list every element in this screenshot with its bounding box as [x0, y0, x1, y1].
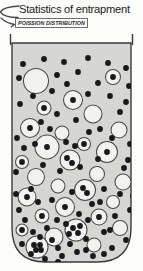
free-particle	[101, 186, 107, 192]
free-particle	[55, 245, 61, 251]
entrapped-particle	[44, 144, 50, 150]
entrapped-particle	[110, 74, 116, 80]
free-particle	[63, 139, 69, 145]
free-particle	[35, 199, 41, 205]
free-particle	[90, 253, 96, 259]
free-particle	[77, 164, 83, 170]
free-particle	[107, 227, 113, 233]
free-particle	[14, 135, 20, 141]
free-particle	[123, 237, 129, 243]
free-particle	[61, 59, 67, 65]
free-particle	[127, 207, 133, 213]
entrapped-particle	[104, 149, 110, 155]
entrapped-particle	[81, 141, 87, 147]
free-particle	[117, 109, 123, 115]
free-particle	[54, 217, 60, 223]
free-particle	[22, 217, 28, 223]
free-particle	[97, 126, 103, 132]
free-particle	[19, 241, 25, 247]
entrapped-particle	[38, 247, 44, 253]
free-particle	[38, 119, 44, 125]
free-particle	[63, 221, 69, 227]
free-particle	[30, 93, 36, 99]
free-particle	[95, 156, 101, 162]
entrapped-particle	[37, 242, 43, 248]
free-particle	[123, 65, 129, 71]
free-particle	[40, 162, 46, 168]
free-particle	[30, 229, 36, 235]
free-particle	[73, 117, 79, 123]
entrapped-particle	[24, 194, 30, 200]
entrapped-particle	[33, 247, 39, 253]
page-title: Statistics of entrapment	[19, 3, 130, 15]
bubble	[87, 238, 101, 252]
free-particle	[105, 60, 111, 66]
free-particle	[101, 229, 107, 235]
free-particle	[44, 225, 50, 231]
free-particle	[125, 157, 131, 163]
free-particle	[28, 251, 34, 257]
free-particle	[28, 186, 34, 192]
free-particle	[86, 129, 92, 135]
free-particle	[117, 191, 123, 197]
free-particle	[123, 99, 129, 105]
entrapped-particle	[84, 190, 90, 196]
bubble	[51, 179, 65, 193]
free-particle	[89, 201, 95, 207]
entrapped-particle	[64, 155, 70, 161]
entrapped-particle	[96, 214, 102, 220]
free-particle	[54, 111, 60, 117]
free-particle	[32, 141, 38, 147]
bubble	[90, 167, 105, 182]
figure-header: Statistics of entrapment POISSION DISTRI…	[0, 0, 143, 34]
entrapped-particle	[19, 227, 25, 233]
entrapped-particle	[70, 97, 76, 103]
free-particle	[76, 211, 82, 217]
free-particle	[49, 88, 55, 94]
subtitle-label: POISSION DISTRIBUTION	[18, 20, 85, 26]
entrapped-particle	[39, 213, 45, 219]
free-particle	[21, 145, 27, 151]
bubble	[60, 150, 80, 170]
free-particle	[101, 251, 107, 257]
free-particle	[109, 245, 115, 251]
free-particle	[75, 69, 81, 75]
free-particle	[13, 169, 19, 175]
entrapment-statistics-figure: Statistics of entrapment POISSION DISTRI…	[0, 0, 143, 271]
subtitle-box: POISSION DISTRIBUTION	[15, 18, 88, 28]
free-particle	[109, 135, 115, 141]
free-particle	[69, 189, 75, 195]
free-particle	[83, 247, 89, 253]
free-particle	[59, 253, 65, 259]
free-particle	[95, 80, 101, 86]
free-particle	[85, 217, 91, 223]
free-particle	[97, 199, 103, 205]
arrow-bracket-icon	[0, 4, 21, 18]
entrapment-vessel-svg	[0, 34, 143, 271]
bubble	[113, 221, 128, 236]
free-particle	[41, 56, 47, 62]
free-particle	[64, 81, 70, 87]
free-particle	[107, 93, 113, 99]
bubble	[24, 69, 49, 94]
free-particle	[112, 213, 118, 219]
bubble	[115, 174, 131, 190]
arrow-callout-icon	[0, 17, 16, 29]
free-particle	[16, 207, 22, 213]
free-particle	[74, 249, 80, 255]
free-particle	[121, 165, 127, 171]
free-particle	[20, 61, 26, 67]
free-particle	[42, 256, 48, 262]
free-particle	[85, 55, 91, 61]
free-particle	[49, 197, 55, 203]
free-particle	[127, 141, 133, 147]
free-particle	[13, 191, 19, 197]
free-particle	[17, 101, 23, 107]
free-particle	[83, 236, 89, 242]
entrapped-particle	[69, 160, 75, 166]
bubble	[55, 126, 69, 140]
bubble	[107, 196, 120, 209]
free-particle	[72, 143, 78, 149]
bubble	[84, 105, 102, 123]
free-particle	[16, 75, 22, 81]
